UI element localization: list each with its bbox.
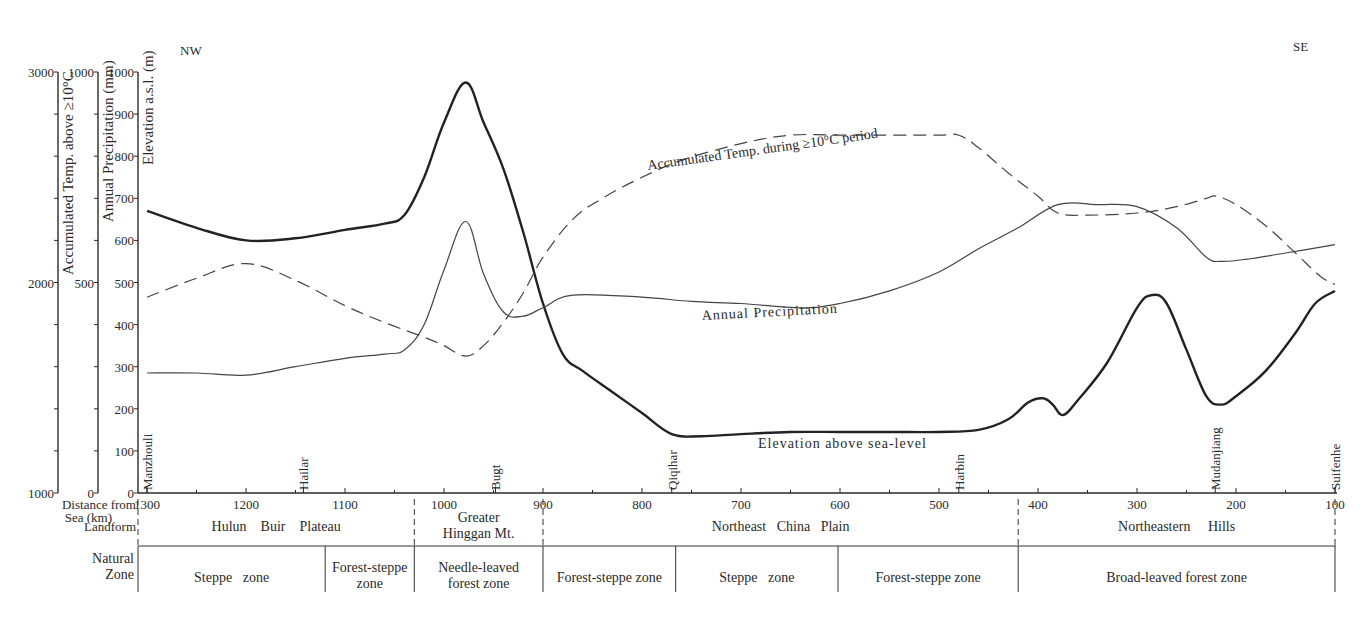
elev-tick-label: 900 [115, 107, 135, 122]
series-label-temp: Accumulated Temp. during ≥10°C period [646, 126, 878, 173]
labels-layer: NWSEAccumulated Temp. during ≥10°C perio… [140, 39, 1343, 493]
zone-label: Forest-steppe zone [875, 570, 980, 585]
elev-tick-label: 600 [115, 233, 135, 248]
zone-label: Needle-leaved [438, 560, 519, 575]
series-line-elev [147, 83, 1335, 437]
elev-tick-label: 400 [115, 318, 135, 333]
precip-tick-label: 500 [75, 276, 95, 291]
zone-row-label: Natural [92, 551, 134, 566]
zone-label: Forest-steppe zone [557, 570, 662, 585]
zone-label: Steppe zone [194, 570, 269, 585]
elev-tick-label: 500 [115, 276, 135, 291]
x-tick-label: 1100 [332, 497, 358, 512]
direction-nw-label: NW [180, 43, 202, 58]
landform-label: Northeastern Hills [1118, 519, 1235, 534]
elev-tick-label: 800 [115, 149, 135, 164]
place-label-hailar: Hailar [296, 457, 311, 490]
x-tick-label: 1200 [233, 497, 259, 512]
x-tick-label: 600 [830, 497, 850, 512]
zone-label: forest zone [448, 576, 510, 591]
series-line-temp [147, 134, 1335, 356]
landform-row-label: Landform [84, 519, 136, 534]
landform-label: Greater [458, 510, 500, 525]
place-label-manzhouli: Manzhouli [140, 433, 155, 490]
temp-tick-label: 1000 [28, 486, 54, 501]
place-label-bugt: Bugt [488, 464, 503, 490]
elev-tick-label: 200 [115, 402, 135, 417]
temp-axis-title: Accumulated Temp. above ≥10°C [60, 71, 76, 275]
zone-label: Forest-steppe [332, 560, 407, 575]
elev-tick-label: 700 [115, 191, 135, 206]
landform-label: Northeast China Plain [712, 519, 850, 534]
direction-se-label: SE [1293, 39, 1308, 54]
place-label-harbin: Harbin [952, 453, 967, 490]
zone-row-label-2: Zone [105, 567, 134, 582]
x-tick-label: 300 [1127, 497, 1147, 512]
place-label-suifenhe: Suifenhe [1328, 444, 1343, 490]
table-layer: LandformNaturalZoneHulun Buir PlateauGre… [84, 499, 1336, 592]
place-label-mudanjiang: Mudanjiang [1208, 427, 1223, 490]
profile-chart: 1000200030000500100001002003004005006007… [0, 0, 1367, 621]
temp-tick-label: 2000 [28, 276, 54, 291]
landform-label: Hinggan Mt. [443, 526, 515, 541]
x-tick-label: 700 [731, 497, 751, 512]
precip-axis-title: Annual Precipitation (mm) [100, 60, 117, 222]
zone-label: zone [357, 576, 383, 591]
series-label-elev: Elevation above sea-level [758, 436, 927, 451]
x-tick-label: 500 [929, 497, 949, 512]
axes: 1000200030000500100001002003004005006007… [28, 50, 1345, 525]
series-layer [147, 83, 1335, 437]
elev-tick-label: 300 [115, 360, 135, 375]
series-line-precip [147, 203, 1335, 376]
elev-tick-label: 100 [115, 444, 135, 459]
x-tick-label: 400 [1028, 497, 1048, 512]
place-label-qiqihar: Qiqihar [665, 450, 680, 490]
landform-label: Hulun Buir Plateau [212, 519, 341, 534]
x-tick-label: 1000 [431, 497, 457, 512]
temp-tick-label: 3000 [28, 65, 54, 80]
zone-label: Steppe zone [719, 570, 794, 585]
elev-axis-title: Elevation a.s.l. (m) [140, 50, 157, 165]
x-tick-label: 800 [632, 497, 652, 512]
x-tick-label: 200 [1226, 497, 1246, 512]
zone-label: Broad-leaved forest zone [1106, 570, 1247, 585]
series-label-precip: Annual Precipitation [701, 301, 838, 323]
